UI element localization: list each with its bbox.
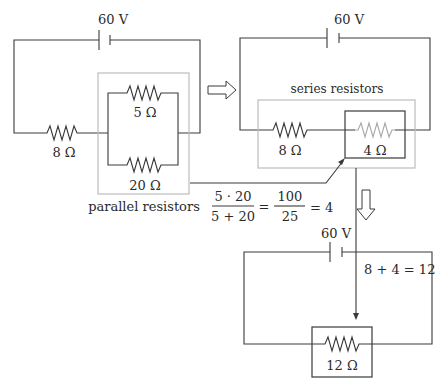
circuit-diagram: 60 V 8 Ω 5 Ω 20 Ω parallel resistors 60 …: [0, 0, 447, 387]
battery-label: 60 V: [334, 12, 365, 27]
formula-numerator-1: 5 · 20: [214, 189, 251, 204]
resistor-8-ohm-icon: [42, 126, 83, 140]
resistor-20-ohm-icon: [124, 158, 164, 172]
parallel-resistors-caption: parallel resistors: [88, 199, 200, 214]
arrowhead-icon: [338, 158, 345, 165]
parallel-group-box: [98, 73, 189, 194]
battery-label: 60 V: [98, 12, 129, 27]
resistor-8-ohm-icon: [270, 123, 310, 137]
resistor-5-ohm-icon: [124, 86, 164, 100]
resistor-8-ohm-label: 8 Ω: [278, 143, 301, 158]
battery-icon: [99, 30, 110, 50]
series-to-equivalent-connector: [353, 168, 359, 320]
arrowhead-icon: [353, 313, 359, 320]
resistor-12-ohm-icon: [322, 337, 362, 351]
resistor-20-ohm-label: 20 Ω: [129, 178, 160, 193]
parallel-branch-wires: [108, 93, 178, 165]
parallel-formula: 5 · 20 5 + 20 = 100 25 = 4: [211, 189, 333, 224]
resistor-4-ohm-label: 4 Ω: [363, 143, 386, 158]
resistor-5-ohm-label: 5 Ω: [133, 105, 156, 120]
parallel-to-series-connector: [190, 158, 345, 183]
formula-denominator-2: 25: [282, 209, 299, 224]
series-resistors-caption: series resistors: [291, 82, 384, 96]
down-arrow-icon: [357, 190, 375, 220]
circuit-1-wire: [14, 40, 200, 133]
series-formula: 8 + 4 = 12: [364, 262, 435, 277]
circuit-1: 60 V 8 Ω 5 Ω 20 Ω parallel resistors: [14, 12, 200, 214]
formula-numerator-2: 100: [278, 189, 303, 204]
formula-equals: =: [259, 199, 270, 214]
resistor-8-ohm-label: 8 Ω: [52, 145, 75, 160]
resistor-4-ohm-icon: [355, 123, 395, 137]
circuit-2: 60 V series resistors 8 Ω 4 Ω: [240, 12, 430, 168]
formula-denominator-1: 5 + 20: [211, 209, 255, 224]
formula-result: = 4: [310, 200, 333, 215]
circuit-3: 60 V 8 + 4 = 12 12 Ω: [244, 226, 435, 377]
battery-label: 60 V: [321, 226, 352, 241]
right-arrow-icon: [208, 81, 236, 99]
resistor-12-ohm-label: 12 Ω: [326, 358, 357, 373]
battery-icon: [330, 242, 342, 262]
battery-icon: [327, 28, 339, 48]
